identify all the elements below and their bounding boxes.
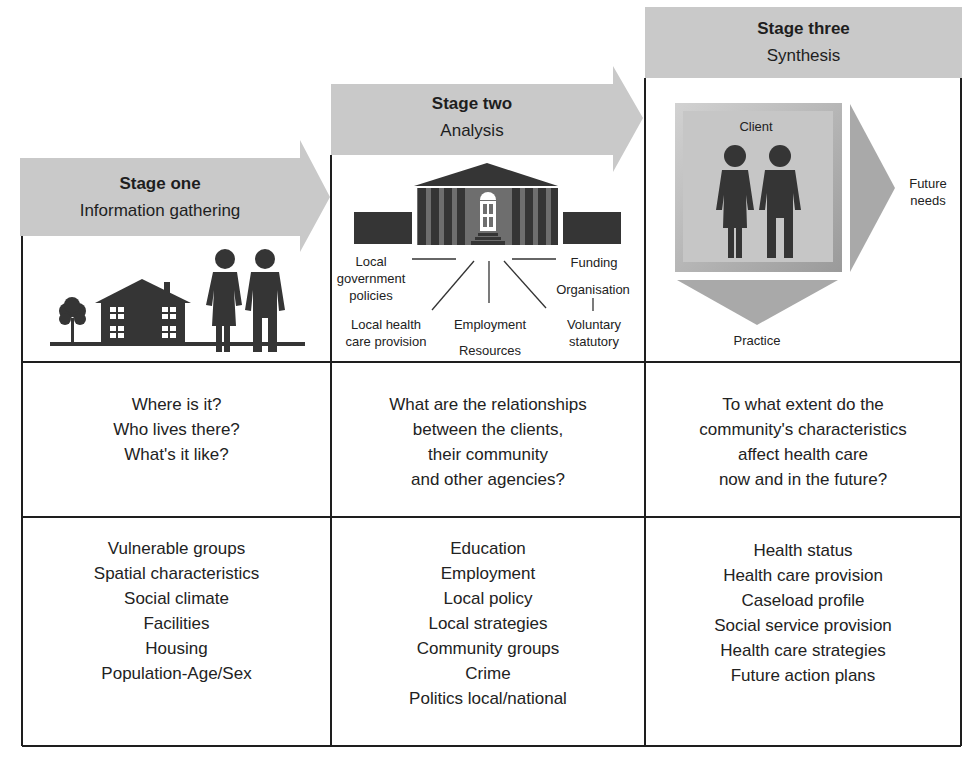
stage-three-questions: To what extent do the community's charac… xyxy=(645,392,961,492)
stage-one-title: Stage one xyxy=(20,174,300,194)
label-resources: Resources xyxy=(440,342,540,359)
stage-one-items: Vulnerable groups Spatial characteristic… xyxy=(22,536,331,686)
stage-two-items: Education Employment Local policy Local … xyxy=(331,536,645,711)
house-icon xyxy=(95,279,191,344)
stage-two-subtitle: Analysis xyxy=(331,121,613,141)
future-needs-arrow xyxy=(850,104,895,272)
person-female-icon xyxy=(206,249,242,352)
label-future-needs: Future needs xyxy=(898,175,958,209)
label-local-government-policies: Local government policies xyxy=(336,253,406,304)
stage-two-arrow xyxy=(331,66,643,172)
label-client: Client xyxy=(716,118,796,135)
stage-three-subtitle: Synthesis xyxy=(645,46,962,66)
stage-one-questions: Where is it? Who lives there? What's it … xyxy=(22,392,331,467)
practice-arrow xyxy=(677,280,838,325)
stage-two-questions: What are the relationships between the c… xyxy=(331,392,645,492)
stage-one-subtitle: Information gathering xyxy=(20,201,300,221)
stage-three-header xyxy=(645,7,962,78)
building-icon xyxy=(354,163,621,245)
label-organisation: Organisation xyxy=(545,281,641,298)
tree-icon xyxy=(59,297,86,344)
stage-one-arrow xyxy=(20,140,330,252)
label-local-health-care-provision: Local health care provision xyxy=(336,316,436,350)
stage-three-items: Health status Health care provision Case… xyxy=(645,538,961,688)
stage-three-title: Stage three xyxy=(645,19,962,39)
label-voluntary-statutory: Voluntary statutory xyxy=(552,316,636,350)
client-panel xyxy=(675,103,895,325)
stage-two-title: Stage two xyxy=(331,94,613,114)
person-male-icon xyxy=(245,249,285,352)
label-practice: Practice xyxy=(717,332,797,349)
stage-one-illustration xyxy=(50,249,305,352)
label-funding: Funding xyxy=(560,254,628,271)
label-employment: Employment xyxy=(440,316,540,333)
